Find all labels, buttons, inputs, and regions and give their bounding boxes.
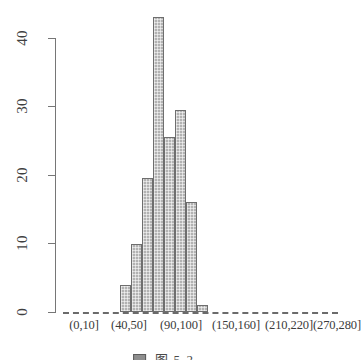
x-tick-label: (270,280] (313, 318, 361, 333)
histogram-bar (120, 285, 131, 312)
caption-label: 图 5-2 ... (155, 352, 211, 360)
histogram-bar (197, 305, 208, 312)
x-axis-baseline (63, 312, 338, 314)
x-axis-tick-labels: (0,10](40,50](90,100](150,160](210,220](… (0, 318, 344, 338)
histogram-bar (142, 178, 153, 312)
x-tick-label: (150,160] (212, 318, 260, 333)
histogram-bar (164, 137, 175, 312)
histogram-bar (186, 202, 197, 312)
x-tick-label: (210,220] (265, 318, 313, 333)
figure-caption-text: 图 5-2 ... (133, 349, 211, 360)
histogram-bar (153, 17, 164, 312)
x-tick-label: (40,50] (111, 318, 147, 333)
histogram-bar (175, 110, 186, 312)
x-tick-label: (0,10] (69, 318, 99, 333)
figure-caption: 图 5-2 ... (0, 349, 344, 360)
caption-swatch-icon (133, 354, 146, 360)
x-tick-label: (90,100] (160, 318, 202, 333)
histogram-bar (131, 244, 142, 313)
